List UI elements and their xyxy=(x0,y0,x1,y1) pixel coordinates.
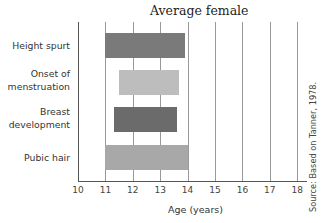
bar xyxy=(105,33,184,58)
grid-line xyxy=(270,22,271,181)
grid-line xyxy=(297,22,298,181)
x-tick-label: 11 xyxy=(95,185,115,195)
x-tick-label: 12 xyxy=(123,185,143,195)
label-line: development xyxy=(0,118,70,131)
bar xyxy=(105,145,187,170)
x-tick-label: 16 xyxy=(232,185,252,195)
x-tick-label: 13 xyxy=(150,185,170,195)
bar xyxy=(119,70,179,95)
grid-line xyxy=(215,22,216,181)
category-label-menstruation: Onset of menstruation xyxy=(0,67,70,93)
x-tick-label: 15 xyxy=(205,185,225,195)
grid-line xyxy=(188,22,189,181)
x-axis xyxy=(78,181,307,182)
label-line: Breast xyxy=(0,105,70,118)
category-label-breast: Breast development xyxy=(0,105,70,131)
label-line: Onset of xyxy=(0,67,70,80)
x-axis-label: Age (years) xyxy=(168,204,223,215)
category-label-height-spurt: Height spurt xyxy=(0,39,70,52)
x-tick-label: 18 xyxy=(287,185,307,195)
label-line: menstruation xyxy=(0,80,70,93)
x-tick-label: 10 xyxy=(68,185,88,195)
category-label-pubic-hair: Pubic hair xyxy=(0,151,70,164)
x-tick-label: 17 xyxy=(260,185,280,195)
grid-line xyxy=(242,22,243,181)
x-tick-label: 14 xyxy=(178,185,198,195)
y-axis xyxy=(78,22,79,182)
chart-title: Average female xyxy=(150,3,249,18)
source-note: Source: Based on Tanner, 1978. xyxy=(308,82,318,212)
bar xyxy=(114,107,177,132)
